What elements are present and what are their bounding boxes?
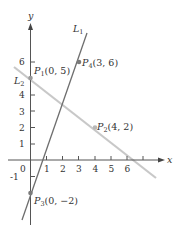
point-p4-label: P4(3, 6)	[81, 57, 118, 70]
x-tick-label: 1	[44, 164, 50, 174]
point-p3	[28, 191, 33, 196]
x-tick-label: 6	[125, 164, 131, 174]
point-p1-label: P1(0, 5)	[33, 65, 70, 78]
line-l2-label: L2	[13, 75, 24, 88]
x-tick-label: 5	[109, 164, 115, 174]
x-tick-label: 4	[93, 164, 99, 174]
y-axis-label: y	[27, 10, 34, 21]
y-tick-label: 3	[19, 107, 25, 117]
point-p2-label: P2(4, 2)	[96, 121, 133, 134]
y-tick-label: 6	[19, 57, 25, 67]
coordinate-plane: y x 0 1 2 3 4 5 6 -1 1 2 3 4 6 L1 L2 P1(…	[0, 0, 180, 230]
point-p1	[28, 76, 33, 81]
y-tick-label: 2	[19, 123, 25, 133]
point-p3-label: P3(0, −2)	[33, 195, 78, 208]
x-axis-label: x	[167, 154, 173, 165]
x-tick-label: 2	[60, 164, 66, 174]
x-tick-label: 0	[20, 164, 26, 174]
point-p4	[77, 60, 82, 65]
y-tick-label: 1	[19, 139, 25, 149]
x-axis-arrow-icon	[158, 158, 165, 163]
y-axis-arrow-icon	[28, 23, 33, 30]
line-l1-label: L1	[72, 23, 83, 36]
x-tick-label: 3	[76, 164, 82, 174]
y-tick-label: -1	[10, 172, 19, 182]
line-l2	[14, 67, 156, 178]
y-tick-label: 4	[19, 90, 25, 100]
